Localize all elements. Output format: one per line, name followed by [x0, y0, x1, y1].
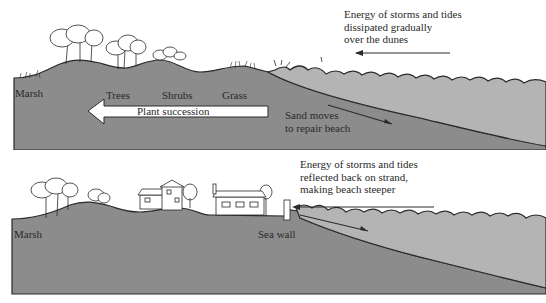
label-sea-wall: Sea wall [258, 228, 296, 240]
energy-note-top: Energy of storms and tides dissipated gr… [344, 8, 462, 46]
natural-dunes-panel: Marsh Trees Shrubs Grass Plant successio… [0, 0, 546, 150]
house-icon [138, 180, 184, 210]
sea-wall-icon [284, 200, 290, 220]
label-shrubs: Shrubs [162, 89, 193, 101]
sea-wall-panel: Marsh Sea wall Energy of storms and tide… [0, 150, 546, 303]
label-marsh: Marsh [15, 87, 43, 99]
sand-note: Sand moves to repair beach [285, 109, 350, 134]
label-marsh-bottom: Marsh [14, 228, 42, 240]
energy-note-bottom: Energy of storms and tides reflected bac… [300, 158, 418, 196]
sea-wall-illustration [0, 150, 546, 303]
label-plant-succession: Plant succession [137, 105, 209, 117]
natural-dunes-illustration [0, 0, 546, 150]
shrubs-icon [153, 47, 186, 60]
label-grass: Grass [222, 89, 247, 101]
label-trees: Trees [106, 89, 130, 101]
house-icon [213, 184, 266, 215]
